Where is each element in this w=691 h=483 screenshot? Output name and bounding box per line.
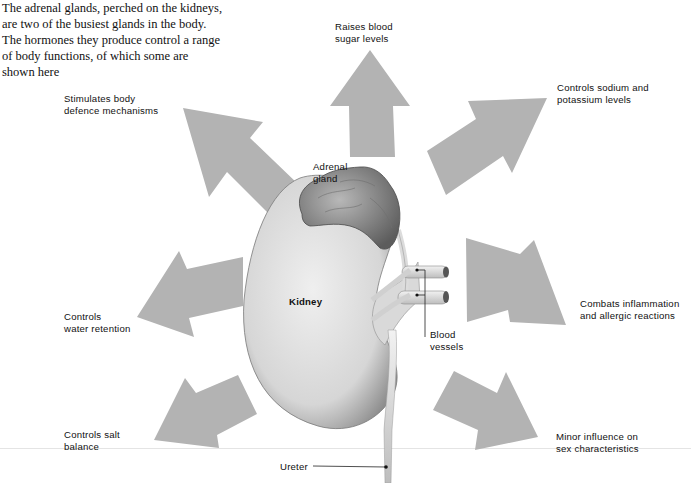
label-line: Raises blood — [335, 21, 393, 33]
label-kidney: Kidney — [289, 296, 322, 308]
arrow-up-right-icon — [427, 98, 547, 195]
label-line: defence mechanisms — [64, 105, 158, 117]
arrow-right-icon — [466, 238, 566, 325]
arrow-down-right-icon — [433, 371, 538, 450]
label-raises-blood-sugar: Raises blood sugar levels — [335, 21, 393, 44]
label-inflammation: Combats inflammation and allergic reacti… — [580, 298, 679, 321]
label-line: Stimulates body — [64, 93, 158, 105]
label-line: potassium levels — [557, 94, 649, 106]
label-sex-characteristics: Minor influence on sex characteristics — [556, 431, 639, 454]
label-line: Controls sodium and — [557, 82, 649, 94]
label-adrenal-gland: Adrenal gland — [313, 161, 347, 184]
label-line: Adrenal — [313, 161, 347, 173]
label-line: Combats inflammation — [580, 298, 679, 310]
label-line: water retention — [64, 323, 130, 335]
label-line: balance — [64, 441, 120, 453]
label-salt-balance: Controls salt balance — [64, 429, 120, 452]
label-line: Controls salt — [64, 429, 120, 441]
arrow-left-icon — [137, 251, 243, 337]
adrenal-diagram — [0, 0, 691, 483]
label-blood-vessels: Blood vessels — [430, 329, 463, 352]
label-line: and allergic reactions — [580, 310, 679, 322]
arrow-down-left-icon — [154, 375, 257, 448]
label-sodium-potassium: Controls sodium and potassium levels — [557, 82, 649, 105]
label-line: sex characteristics — [556, 443, 639, 455]
label-defence-mechanisms: Stimulates body defence mechanisms — [64, 93, 158, 116]
label-line: Blood — [430, 329, 463, 341]
label-line: Minor influence on — [556, 431, 639, 443]
label-line: sugar levels — [335, 33, 393, 45]
label-water-retention: Controls water retention — [64, 311, 130, 334]
label-line: gland — [313, 173, 347, 185]
label-line: Controls — [64, 311, 130, 323]
arrow-up-icon — [330, 50, 410, 157]
label-line: vessels — [430, 341, 463, 353]
label-ureter: Ureter — [280, 461, 308, 473]
